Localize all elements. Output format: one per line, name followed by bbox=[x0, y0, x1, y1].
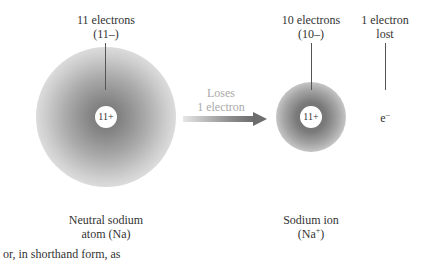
atom-leader-line bbox=[105, 43, 106, 90]
right-arrow-icon bbox=[183, 116, 253, 122]
lost-electron-label: 1 electron lost bbox=[345, 13, 425, 41]
arrow-head-icon bbox=[253, 112, 267, 126]
ion-nucleus: 11+ bbox=[300, 106, 322, 128]
atom-name-label: Neutral sodium atom (Na) bbox=[46, 213, 166, 241]
ion-leader-line bbox=[311, 43, 312, 90]
footer-text: or, in shorthand form, as bbox=[3, 247, 121, 262]
atom-nucleus: 11+ bbox=[95, 106, 117, 128]
process-label: Loses 1 electron bbox=[176, 86, 266, 114]
lost-electron-leader-line bbox=[385, 43, 386, 90]
ion-name-label: Sodium ion (Na+) bbox=[261, 213, 361, 241]
electron-symbol: e– bbox=[370, 111, 400, 125]
atom-electron-label: 11 electrons (11–) bbox=[56, 13, 156, 41]
